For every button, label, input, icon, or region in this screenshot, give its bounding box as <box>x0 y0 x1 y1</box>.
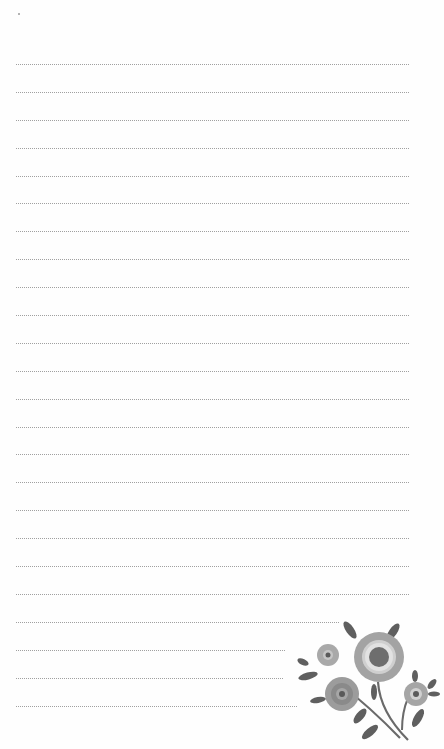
ruled-line <box>16 706 298 707</box>
ruled-line <box>16 231 410 232</box>
notepaper-page <box>0 0 444 749</box>
ruled-line <box>16 176 410 177</box>
ruled-line <box>16 427 410 428</box>
ruled-line <box>16 594 410 595</box>
ruled-line <box>16 259 410 260</box>
ruled-line <box>16 371 410 372</box>
ruled-line <box>16 92 410 93</box>
ruled-line <box>16 120 410 121</box>
ruled-line <box>16 64 410 65</box>
ruled-line <box>16 343 410 344</box>
ruled-line <box>16 315 410 316</box>
ruled-line <box>16 454 410 455</box>
ruled-line <box>16 538 410 539</box>
corner-dot <box>18 13 20 15</box>
ruled-line <box>16 399 410 400</box>
ruled-line <box>16 678 283 679</box>
ruled-line <box>16 148 410 149</box>
ruled-line <box>16 650 286 651</box>
ruled-line <box>16 510 410 511</box>
ruled-line <box>16 566 410 567</box>
ruled-line <box>16 203 410 204</box>
ruled-line <box>16 482 410 483</box>
ruled-line <box>16 287 410 288</box>
flower-bouquet-icon <box>290 612 444 749</box>
